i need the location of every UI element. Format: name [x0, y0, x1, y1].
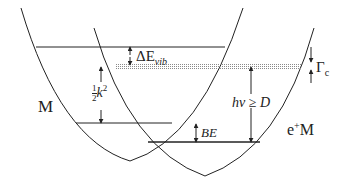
- label-gamma-c: Γc: [316, 60, 329, 78]
- label-hv-ge-d: hν ≥ D: [232, 96, 270, 110]
- label-delta-e-vib: ΔEvib: [136, 49, 167, 67]
- label-curve-eM: e+M: [287, 121, 314, 138]
- label-be: BE: [201, 126, 217, 139]
- curve-eM: [94, 28, 314, 176]
- label-half-k-squared: 1 2 k2: [92, 84, 107, 103]
- label-curve-M: M: [38, 98, 53, 115]
- potential-energy-diagram: ΔEvib Γc 1 2 k2 hν ≥ D BE M e+M: [0, 0, 343, 192]
